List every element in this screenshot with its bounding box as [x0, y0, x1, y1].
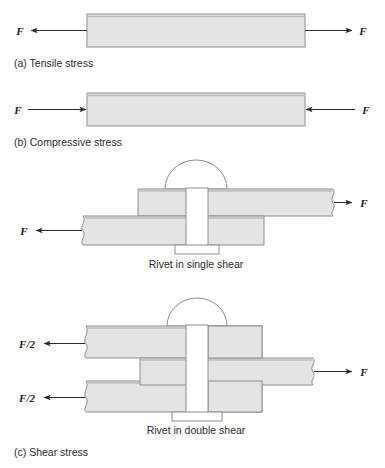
- panel-tensile: F F (a) Tensile stress: [14, 14, 367, 69]
- single-shear-force-right-label: F: [359, 197, 368, 209]
- double-shear-rivet-shank: [186, 325, 208, 413]
- double-shear-force-right-label: F: [359, 366, 368, 378]
- single-shear-lower-plate: [82, 216, 264, 245]
- compressive-force-right-label: F: [361, 104, 370, 116]
- single-shear-rivet-head: [165, 160, 227, 189]
- single-shear-upper-plate: [138, 189, 334, 216]
- tensile-bar: [87, 14, 305, 47]
- figure-canvas: F F (a) Tensile stress F F (b) Compressi…: [0, 0, 385, 468]
- single-shear-force-left-label: F: [19, 225, 28, 237]
- double-shear-force-top-left-label: F/2: [18, 338, 35, 350]
- double-shear-force-bottom-left-label: F/2: [18, 392, 35, 404]
- single-shear-rivet-tail: [175, 245, 219, 254]
- double-shear-rivet-tail: [172, 412, 222, 421]
- double-shear-lower-outer-plate-right: [208, 381, 262, 412]
- double-shear-caption: Rivet in double shear: [147, 424, 246, 436]
- tensile-force-right-label: F: [358, 25, 367, 37]
- shear-stress-caption: (c) Shear stress: [14, 446, 88, 458]
- tensile-caption: (a) Tensile stress: [14, 57, 93, 69]
- tensile-force-left-label: F: [15, 25, 24, 37]
- compressive-caption: (b) Compressive stress: [14, 136, 122, 148]
- compressive-bar: [87, 93, 305, 126]
- double-shear-rivet-head: [167, 298, 227, 326]
- single-shear-caption: Rivet in single shear: [149, 258, 244, 270]
- single-shear-rivet-shank: [186, 188, 208, 249]
- double-shear-upper-outer-plate-right: [208, 326, 262, 358]
- compressive-force-left-label: F: [13, 104, 22, 116]
- panel-single-shear: F F Rivet in single shear: [19, 160, 368, 270]
- panel-compressive: F F (b) Compressive stress: [13, 93, 370, 148]
- panel-double-shear: F/2 F/2 F Rivet in double shear (c) Shea…: [14, 298, 368, 458]
